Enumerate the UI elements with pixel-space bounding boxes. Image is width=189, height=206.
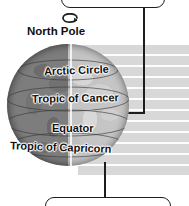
label-arctic-circle: Arctic Circle (44, 63, 109, 77)
label-tropic-of-cancer: Tropic of Cancer (32, 91, 119, 105)
leader-line-to-bottom-callout (104, 162, 106, 198)
leader-line-to-globe-edge (143, 7, 145, 114)
leader-line-to-globe-edge-elbow (127, 112, 145, 114)
diagram-canvas: North Pole Arctic Circle Tropic of Cance… (0, 0, 189, 206)
top-callout-box[interactable] (61, 0, 165, 8)
label-equator: Equator (52, 122, 94, 134)
bottom-callout-box[interactable] (45, 197, 171, 206)
label-north-pole: North Pole (27, 25, 85, 37)
